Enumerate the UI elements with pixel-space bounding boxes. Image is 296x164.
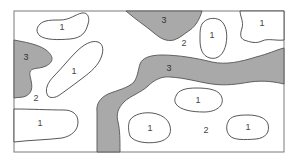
label-center-2: 2 xyxy=(181,38,186,48)
label-bottom-center-left-1: 1 xyxy=(147,123,152,133)
label-bottom-left-1: 1 xyxy=(37,118,42,128)
label-band-3: 3 xyxy=(166,63,171,73)
label-bottom-right-1: 1 xyxy=(245,122,250,132)
label-left-3: 3 xyxy=(23,52,28,62)
label-mid-bottom-1: 1 xyxy=(195,95,200,105)
label-top-right-1: 1 xyxy=(259,18,264,28)
label-top-center-3: 3 xyxy=(161,15,166,25)
label-bottom-2: 2 xyxy=(203,125,208,135)
zone-diagram: 1 3 1 2 1 3 2 1 1 3 1 1 2 1 xyxy=(0,0,296,164)
label-oval-1: 1 xyxy=(209,30,214,40)
zone-map-svg: 1 3 1 2 1 3 2 1 1 3 1 1 2 1 xyxy=(0,0,296,164)
label-top-left-1: 1 xyxy=(59,22,64,32)
label-left-2: 2 xyxy=(33,93,38,103)
label-left-diagonal-1: 1 xyxy=(71,66,76,76)
